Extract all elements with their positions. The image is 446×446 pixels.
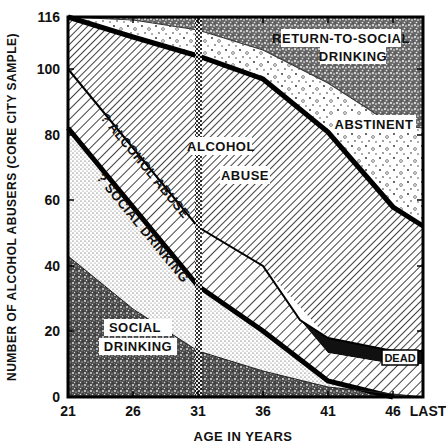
y-tick-40: 40 xyxy=(44,258,60,274)
y-tick-0: 0 xyxy=(52,389,60,405)
y-tick-100: 100 xyxy=(37,61,61,77)
y-tick-80: 80 xyxy=(44,127,60,143)
label-social-drinking: SOCIAL xyxy=(109,320,161,335)
label-alcohol-abuse-2: ABUSE xyxy=(221,168,269,183)
x-tick-41: 41 xyxy=(320,403,336,419)
stacked-area-chart: 116 100 80 60 40 20 0 21 26 31 36 41 46 … xyxy=(0,0,446,446)
x-tick-46: 46 xyxy=(385,403,401,419)
label-return-to-social: RETURN-TO-SOCIAL xyxy=(272,31,410,46)
age-31-reference-band xyxy=(195,17,202,397)
label-return-to-social-2: DRINKING xyxy=(319,49,387,64)
x-tick-last: LAST xyxy=(410,403,446,419)
label-social-drinking-2: DRINKING xyxy=(104,339,172,354)
x-tick-21: 21 xyxy=(60,403,76,419)
x-tick-31: 31 xyxy=(190,403,206,419)
x-tick-26: 26 xyxy=(125,403,141,419)
y-tick-20: 20 xyxy=(44,323,60,339)
y-axis-title: NUMBER OF ALCOHOL ABUSERS (CORE CITY SAM… xyxy=(5,33,19,381)
y-tick-116: 116 xyxy=(37,9,60,25)
label-abstinent: ABSTINENT xyxy=(335,117,414,132)
x-axis-title: AGE IN YEARS xyxy=(194,429,293,444)
y-tick-60: 60 xyxy=(44,192,60,208)
x-tick-36: 36 xyxy=(255,403,271,419)
label-dead: DEAD xyxy=(384,352,415,364)
label-alcohol-abuse: ALCOHOL xyxy=(187,139,255,154)
